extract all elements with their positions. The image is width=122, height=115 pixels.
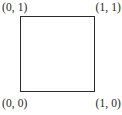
corner-label-top-right: (1, 1): [95, 1, 121, 14]
corner-label-bottom-left: (0, 0): [2, 97, 28, 110]
corner-label-bottom-right: (1, 0): [95, 97, 121, 110]
corner-label-top-left: (0, 1): [2, 1, 28, 14]
unit-square-figure: (0, 1) (1, 1) (0, 0) (1, 0): [0, 0, 122, 115]
unit-square-outline: [20, 16, 95, 92]
